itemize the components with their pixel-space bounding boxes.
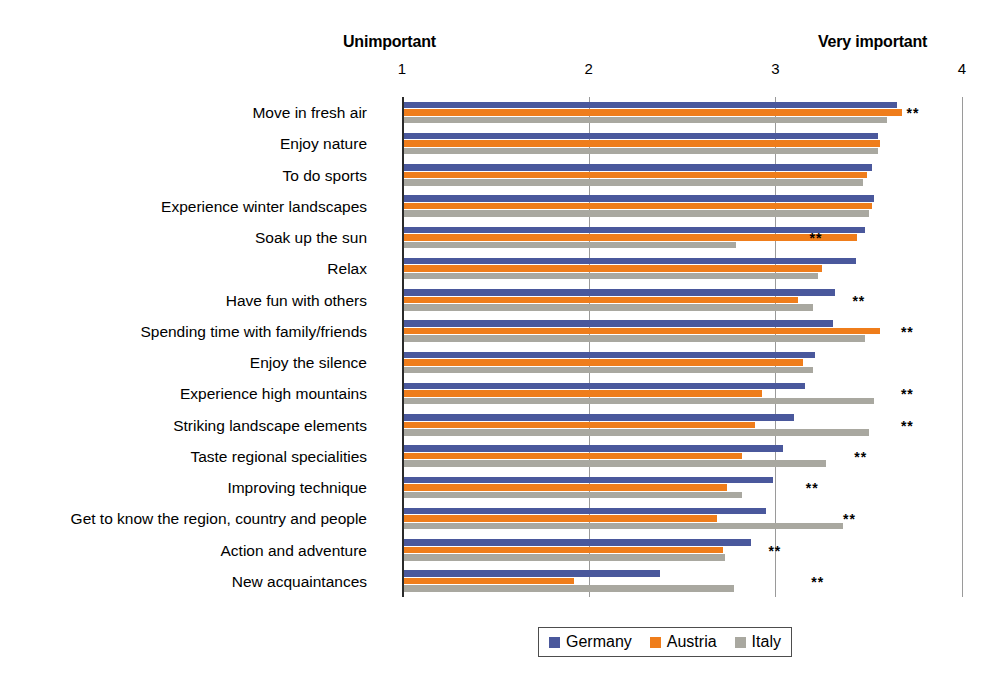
bar-italy (402, 367, 813, 374)
bar-group (402, 160, 962, 191)
bar-italy (402, 554, 725, 561)
bar-austria (402, 203, 872, 210)
category-label: Relax (0, 253, 367, 284)
bar-group (402, 535, 962, 566)
bar-group (402, 566, 962, 597)
bar-austria (402, 234, 857, 241)
bar-germany (402, 164, 872, 171)
bar-row: Get to know the region, country and peop… (402, 503, 962, 534)
bar-italy (402, 398, 874, 405)
bar-group (402, 503, 962, 534)
x-tick-label-4: 4 (942, 60, 982, 77)
bar-group (402, 316, 962, 347)
legend-swatch-icon (650, 637, 661, 648)
bar-austria (402, 172, 867, 179)
bar-group (402, 441, 962, 472)
category-label: Improving technique (0, 472, 367, 503)
bar-row: Striking landscape elements** (402, 410, 962, 441)
gridline-4 (962, 97, 963, 597)
bar-austria (402, 453, 742, 460)
bar-italy (402, 335, 865, 342)
y-axis-line (402, 97, 404, 597)
bar-italy (402, 585, 734, 592)
bar-group (402, 347, 962, 378)
bar-germany (402, 445, 783, 452)
category-label: Enjoy the silence (0, 347, 367, 378)
category-label: Striking landscape elements (0, 410, 367, 441)
bar-austria (402, 547, 723, 554)
bar-germany (402, 508, 766, 515)
significance-marker: ** (768, 536, 781, 567)
bar-row: Experience winter landscapes (402, 191, 962, 222)
bar-austria (402, 578, 574, 585)
bar-italy (402, 523, 843, 530)
legend-item-austria: Austria (650, 633, 717, 651)
significance-marker: ** (852, 286, 865, 317)
bar-italy (402, 492, 742, 499)
legend-label: Germany (566, 633, 632, 651)
bar-row: Enjoy the silence (402, 347, 962, 378)
bar-row: Action and adventure** (402, 535, 962, 566)
bar-austria (402, 265, 822, 272)
bar-row: To do sports (402, 160, 962, 191)
bar-group (402, 472, 962, 503)
significance-marker: ** (901, 317, 914, 348)
category-label: Soak up the sun (0, 222, 367, 253)
significance-marker: ** (811, 567, 824, 598)
bar-italy (402, 242, 736, 249)
bar-austria (402, 328, 880, 335)
x-tick-label-3: 3 (755, 60, 795, 77)
bar-austria (402, 422, 755, 429)
bar-group (402, 222, 962, 253)
category-label: Have fun with others (0, 285, 367, 316)
bar-group (402, 97, 962, 128)
legend-swatch-icon (549, 637, 560, 648)
bar-group (402, 285, 962, 316)
scale-anchor-low-label: Unimportant (343, 33, 436, 51)
bar-italy (402, 273, 818, 280)
bar-austria (402, 390, 762, 397)
bar-italy (402, 148, 878, 155)
bar-italy (402, 179, 863, 186)
bar-germany (402, 477, 773, 484)
bar-italy (402, 117, 887, 124)
significance-marker: ** (854, 442, 867, 473)
x-tick-label-2: 2 (569, 60, 609, 77)
significance-marker: ** (907, 98, 920, 129)
legend-swatch-icon (735, 637, 746, 648)
category-label: Enjoy nature (0, 128, 367, 159)
legend-label: Austria (667, 633, 717, 651)
bar-row: Improving technique** (402, 472, 962, 503)
significance-marker: ** (901, 411, 914, 442)
category-label: Get to know the region, country and peop… (0, 503, 367, 534)
significance-marker: ** (809, 223, 822, 254)
bar-row: Experience high mountains** (402, 378, 962, 409)
bar-italy (402, 429, 869, 436)
bar-row: Taste regional specialities** (402, 441, 962, 472)
x-tick-label-1: 1 (382, 60, 422, 77)
category-label: New acquaintances (0, 566, 367, 597)
plot-area: Move in fresh air**Enjoy natureTo do spo… (402, 97, 962, 597)
category-label: To do sports (0, 160, 367, 191)
significance-marker: ** (901, 379, 914, 410)
legend-item-germany: Germany (549, 633, 632, 651)
chart-legend: GermanyAustriaItaly (538, 627, 792, 657)
category-label: Action and adventure (0, 535, 367, 566)
bar-austria (402, 140, 880, 147)
legend-item-italy: Italy (735, 633, 781, 651)
bar-italy (402, 210, 869, 217)
scale-anchor-high-label: Very important (818, 33, 927, 51)
category-label: Move in fresh air (0, 97, 367, 128)
bar-germany (402, 539, 751, 546)
legend-label: Italy (752, 633, 781, 651)
category-label: Taste regional specialities (0, 441, 367, 472)
bar-austria (402, 109, 902, 116)
bar-germany (402, 195, 874, 202)
bar-germany (402, 383, 805, 390)
bar-row: Have fun with others** (402, 285, 962, 316)
bar-austria (402, 484, 727, 491)
bar-austria (402, 359, 803, 366)
bar-group (402, 253, 962, 284)
bar-germany (402, 227, 865, 234)
bar-row: Enjoy nature (402, 128, 962, 159)
